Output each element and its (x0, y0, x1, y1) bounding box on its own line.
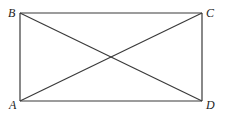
vertex-label-c: C (206, 6, 215, 20)
rectangle-diagram: B C A D (0, 0, 227, 117)
vertex-label-b: B (8, 6, 16, 20)
diagonals (20, 13, 202, 101)
vertex-label-a: A (8, 98, 17, 112)
vertex-label-d: D (205, 98, 215, 112)
